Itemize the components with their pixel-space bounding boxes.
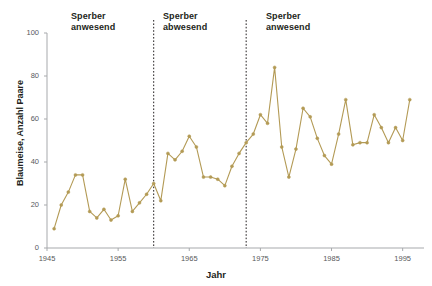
y-tick-label: 0 xyxy=(17,243,39,252)
x-axis-label: Jahr xyxy=(146,269,286,280)
data-point xyxy=(216,178,219,181)
series-line-blaumeise xyxy=(54,67,410,228)
line-chart-plot xyxy=(0,0,432,286)
data-point xyxy=(188,135,191,138)
x-tick-label: 1945 xyxy=(27,254,67,263)
data-point xyxy=(287,176,290,179)
data-point xyxy=(408,98,411,101)
data-point xyxy=(394,126,397,129)
data-point xyxy=(102,208,105,211)
data-point xyxy=(259,113,262,116)
data-point xyxy=(344,98,347,101)
y-axis-label: Blaumeise, Anzahl Paare xyxy=(15,58,25,208)
x-tick-label: 1965 xyxy=(169,254,209,263)
annotation-period-2: Sperber abwesend xyxy=(163,11,207,33)
x-tick-label: 1985 xyxy=(312,254,352,263)
annotation-period-1: Sperber anwesend xyxy=(71,11,115,33)
data-point xyxy=(337,133,340,136)
data-point xyxy=(209,176,212,179)
data-point xyxy=(280,145,283,148)
annotation-period-3: Sperber anwesend xyxy=(266,11,310,33)
data-point xyxy=(358,141,361,144)
data-point xyxy=(166,152,169,155)
data-point xyxy=(131,210,134,213)
data-point xyxy=(117,214,120,217)
data-point xyxy=(81,173,84,176)
data-point xyxy=(152,182,155,185)
data-point xyxy=(351,143,354,146)
data-point xyxy=(95,216,98,219)
data-point xyxy=(74,173,77,176)
data-point xyxy=(145,193,148,196)
y-tick-label: 100 xyxy=(17,28,39,37)
chart-figure: Blaumeise, Anzahl Paare Jahr Sperber anw… xyxy=(0,0,432,286)
data-point xyxy=(273,66,276,69)
data-point xyxy=(330,163,333,166)
data-point xyxy=(238,152,241,155)
data-point xyxy=(323,154,326,157)
data-point xyxy=(124,178,127,181)
data-point xyxy=(266,122,269,125)
data-point xyxy=(138,201,141,204)
data-point xyxy=(202,176,205,179)
y-tick-label: 60 xyxy=(17,114,39,123)
y-tick-label: 40 xyxy=(17,157,39,166)
data-point xyxy=(316,137,319,140)
data-point xyxy=(88,210,91,213)
period-divider-lines xyxy=(154,20,246,248)
data-point xyxy=(67,191,70,194)
data-point xyxy=(53,227,56,230)
data-point xyxy=(252,133,255,136)
data-point xyxy=(195,145,198,148)
data-point xyxy=(302,107,305,110)
data-point xyxy=(181,150,184,153)
data-point xyxy=(366,141,369,144)
data-point xyxy=(230,165,233,168)
data-point xyxy=(223,184,226,187)
data-point xyxy=(401,139,404,142)
data-point xyxy=(110,219,113,222)
data-point xyxy=(60,204,63,207)
data-point xyxy=(174,158,177,161)
series-markers-blaumeise xyxy=(53,66,412,230)
data-point xyxy=(245,141,248,144)
y-tick-label: 20 xyxy=(17,200,39,209)
data-point xyxy=(309,115,312,118)
x-tick-label: 1955 xyxy=(98,254,138,263)
data-point xyxy=(294,148,297,151)
data-point xyxy=(159,199,162,202)
data-point xyxy=(387,141,390,144)
x-tick-label: 1975 xyxy=(240,254,280,263)
data-point xyxy=(373,113,376,116)
x-tick-label: 1995 xyxy=(383,254,423,263)
y-tick-label: 80 xyxy=(17,71,39,80)
data-point xyxy=(380,126,383,129)
